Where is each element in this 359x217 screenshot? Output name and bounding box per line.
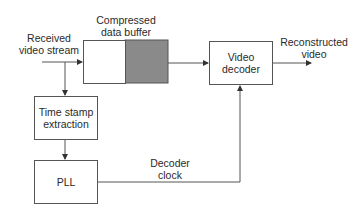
buffer-label-line1: Compressed [86, 14, 166, 26]
pll-box: PLL [34, 160, 98, 204]
clock-label-line1: Decoder [140, 157, 200, 169]
clock-label: Decoder clock [140, 157, 200, 181]
video-decoder-box: Video decoder [209, 41, 273, 85]
input-label-line1: Received [14, 32, 84, 44]
decoder-label-line1: Video [228, 51, 255, 63]
buffer-filled-region [125, 40, 168, 83]
buffer-label-line2: data buffer [86, 26, 166, 38]
input-label-line2: video stream [14, 44, 84, 56]
timestamp-label-line1: Time stamp [39, 106, 93, 118]
output-label-line2: video [274, 48, 354, 60]
clock-label-line2: clock [140, 169, 200, 181]
output-label: Reconstructed video [274, 36, 354, 60]
buffer-empty-region [83, 40, 126, 84]
timestamp-extraction-box: Time stamp extraction [34, 96, 98, 140]
output-label-line1: Reconstructed [274, 36, 354, 48]
decoder-label-line2: decoder [222, 63, 260, 75]
input-label: Received video stream [14, 32, 84, 56]
buffer-label: Compressed data buffer [86, 14, 166, 38]
timestamp-label-line2: extraction [43, 118, 89, 130]
pll-label: PLL [35, 161, 97, 203]
